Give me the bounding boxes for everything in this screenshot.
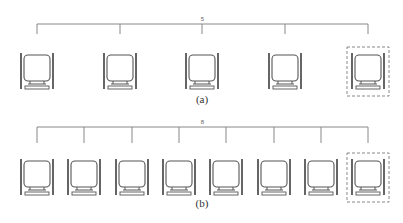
tree-a bbox=[21, 24, 389, 96]
tree-diagram-canvas bbox=[0, 0, 403, 223]
chair-icon bbox=[21, 159, 53, 195]
tree-b bbox=[21, 127, 389, 202]
leaf-count-label: 8 bbox=[201, 119, 204, 125]
chair-icon bbox=[116, 159, 148, 195]
chair-icon bbox=[210, 159, 242, 195]
chair-icon bbox=[258, 159, 290, 195]
chair-icon bbox=[352, 159, 384, 195]
subfigure-caption: (a) bbox=[196, 93, 208, 105]
chair-icon bbox=[186, 53, 218, 89]
chair-icon bbox=[352, 53, 384, 89]
chair-icon bbox=[21, 53, 53, 89]
subfigure-caption: (b) bbox=[196, 197, 209, 209]
leaf-count-label: 5 bbox=[201, 16, 204, 22]
chair-icon bbox=[305, 159, 337, 195]
chair-icon bbox=[163, 159, 195, 195]
chair-icon bbox=[68, 159, 100, 195]
chair-icon bbox=[269, 53, 301, 89]
chair-icon bbox=[104, 53, 136, 89]
